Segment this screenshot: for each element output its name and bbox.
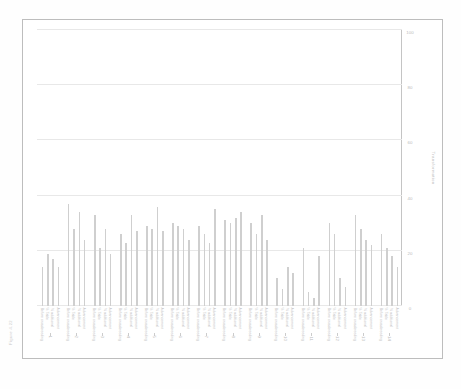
bar — [360, 229, 362, 306]
category-label: Advancement — [186, 308, 190, 329]
category-label: % additional — [129, 308, 133, 327]
category-label: % Table — [280, 308, 284, 320]
value-axis-tick-label: 100 — [406, 30, 413, 35]
bar — [292, 273, 294, 306]
category-label: % Table — [45, 308, 49, 320]
bar — [276, 278, 278, 306]
chart-figure: 020406080100 1Before crossbreeding% Tabl… — [22, 19, 443, 359]
category-label: Advancement — [290, 308, 294, 329]
category-label: Advancement — [134, 308, 138, 329]
category-label: % Table — [228, 308, 232, 320]
bar — [240, 212, 242, 306]
bar — [99, 248, 101, 306]
bar — [282, 289, 284, 306]
category-label: Before crossbreeding — [222, 308, 226, 341]
category-label: Advancement — [212, 308, 216, 329]
category-label: % additional — [311, 308, 315, 327]
bar — [303, 248, 305, 306]
bar — [131, 215, 133, 306]
group-axis-label: 6 — [178, 336, 183, 338]
bar — [250, 223, 252, 306]
bar — [329, 223, 331, 306]
bar — [224, 220, 226, 306]
bar — [397, 267, 399, 306]
figure-caption: Figure 4.22 — [8, 320, 13, 345]
bar — [266, 240, 268, 306]
bar — [120, 234, 122, 306]
gridline — [37, 250, 402, 251]
gridline — [37, 84, 402, 85]
category-label: Before crossbreeding — [144, 308, 148, 341]
bar — [177, 226, 179, 306]
category-label: % additional — [50, 308, 54, 327]
category-label: % additional — [389, 308, 393, 327]
category-label: Before crossbreeding — [379, 308, 383, 341]
bar — [52, 259, 54, 306]
category-label: % Table — [332, 308, 336, 320]
bar — [125, 243, 127, 306]
category-label: % Table — [149, 308, 153, 320]
category-label: Before crossbreeding — [274, 308, 278, 341]
group-axis-label: 12 — [334, 336, 339, 341]
category-label: Advancement — [369, 308, 373, 329]
category-label: % additional — [77, 308, 81, 327]
category-label: Before crossbreeding — [301, 308, 305, 341]
group-axis-label: 3 — [100, 336, 105, 338]
category-label: Before crossbreeding — [92, 308, 96, 341]
gridline — [37, 305, 402, 306]
category-label: % Table — [97, 308, 101, 320]
bar — [172, 223, 174, 306]
category-label: Advancement — [395, 308, 399, 329]
category-label: % additional — [259, 308, 263, 327]
bar — [84, 240, 86, 306]
bar — [68, 204, 70, 306]
category-label: Advancement — [108, 308, 112, 329]
value-axis-tick-label: 60 — [408, 140, 413, 145]
bar — [47, 254, 49, 306]
bar — [214, 209, 216, 306]
category-label: Advancement — [160, 308, 164, 329]
category-label: % Table — [175, 308, 179, 320]
category-label: % Table — [123, 308, 127, 320]
bar — [235, 218, 237, 306]
value-axis-tick-label: 20 — [408, 251, 413, 256]
category-label: % Table — [384, 308, 388, 320]
bar — [391, 256, 393, 306]
category-label: % additional — [285, 308, 289, 327]
bar — [261, 215, 263, 306]
category-label: Before crossbreeding — [248, 308, 252, 341]
category-label: Advancement — [238, 308, 242, 329]
bar — [308, 292, 310, 306]
bar — [58, 267, 60, 306]
group-axis-label: 7 — [204, 336, 209, 338]
bar — [151, 229, 153, 306]
bar — [79, 212, 81, 306]
bar — [318, 256, 320, 306]
bar — [94, 215, 96, 306]
bar — [381, 234, 383, 306]
category-label: Advancement — [343, 308, 347, 329]
group-axis-label: 8 — [230, 336, 235, 338]
group-axis-label: 2 — [74, 336, 79, 338]
category-label: % additional — [181, 308, 185, 327]
category-label: Advancement — [82, 308, 86, 329]
category-label: % Table — [202, 308, 206, 320]
gridline — [37, 29, 402, 30]
category-label: % additional — [155, 308, 159, 327]
plot-area: 020406080100 1Before crossbreeding% Tabl… — [37, 30, 402, 306]
bar — [386, 248, 388, 306]
gridline — [37, 195, 402, 196]
group-axis-label: 1 — [48, 336, 53, 338]
category-label: Before crossbreeding — [66, 308, 70, 341]
value-axis-tick-label: 40 — [408, 196, 413, 201]
category-label: Before crossbreeding — [327, 308, 331, 341]
bar — [345, 287, 347, 306]
category-label: % Table — [306, 308, 310, 320]
bar — [136, 231, 138, 306]
bar — [355, 215, 357, 306]
bar — [105, 229, 107, 306]
bar — [162, 231, 164, 306]
category-label: % additional — [337, 308, 341, 327]
category-label: Advancement — [56, 308, 60, 329]
bar — [73, 229, 75, 306]
